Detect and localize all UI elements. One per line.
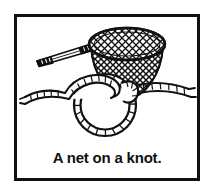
knot-right-wrap (121, 81, 138, 102)
caption-text: A net on a knot. (17, 141, 197, 175)
knot-crossing-overhand (65, 75, 120, 99)
net-on-knot-illustration (17, 17, 197, 145)
illustration-frame: A net on a knot. (14, 14, 200, 181)
net-handle-group (37, 44, 95, 67)
rope-knot-group (20, 74, 196, 136)
left-rope-tail (20, 90, 69, 105)
flashcard: A net on a knot. (0, 0, 214, 194)
